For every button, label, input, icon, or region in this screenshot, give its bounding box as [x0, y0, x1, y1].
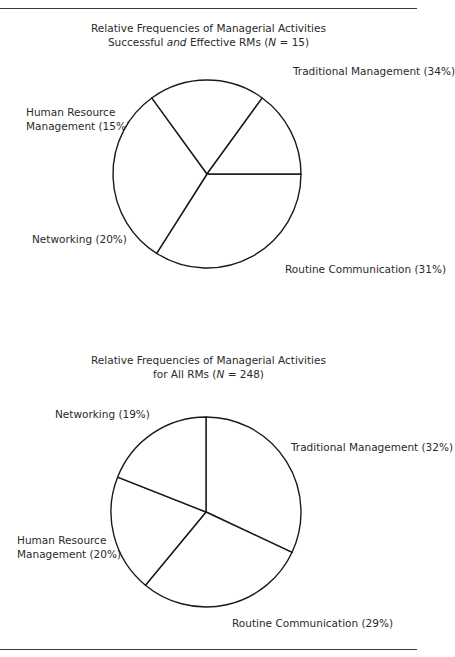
pie-charts	[0, 0, 448, 657]
